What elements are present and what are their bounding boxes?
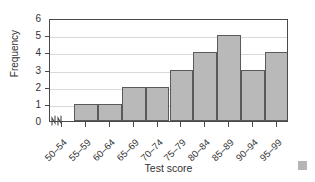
bar-series [50, 20, 287, 121]
y-axis-title: Frequency [9, 16, 20, 92]
bar [217, 35, 241, 121]
bar [146, 87, 170, 121]
y-tick-label: 5 [19, 31, 41, 41]
x-tick-mark [85, 122, 86, 127]
y-tick-label: 1 [19, 100, 41, 110]
y-tick-label: 4 [19, 48, 41, 58]
bar [98, 104, 122, 121]
y-tick-label: 3 [19, 66, 41, 76]
bar [241, 70, 265, 122]
x-tick-mark [180, 122, 181, 127]
x-tick-mark [252, 122, 253, 127]
x-tick-mark [61, 122, 62, 127]
histogram-chart: Frequency 0123456 50–5455–5960–6465–6970… [0, 0, 315, 182]
x-tick-mark [228, 122, 229, 127]
x-tick-mark [133, 122, 134, 127]
y-tick-label: 2 [19, 83, 41, 93]
x-tick-mark [109, 122, 110, 127]
x-axis-title: Test score [49, 162, 288, 174]
bar [122, 87, 146, 121]
bar [265, 52, 288, 121]
bar [170, 70, 194, 122]
bar [193, 52, 217, 121]
x-tick-mark [204, 122, 205, 127]
x-tick-mark [157, 122, 158, 127]
y-tick-label: 6 [19, 14, 41, 24]
plot-area [49, 19, 288, 122]
y-tick-label: 0 [19, 117, 41, 127]
page-artifact-square [298, 161, 307, 170]
bar [74, 104, 98, 121]
x-tick-mark [276, 122, 277, 127]
axis-break-icon [50, 115, 66, 127]
